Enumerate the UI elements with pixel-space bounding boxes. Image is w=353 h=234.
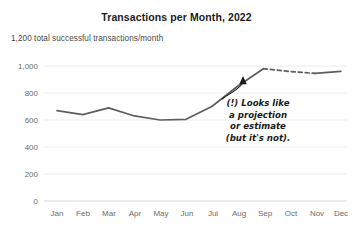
x-tick-label-nov: Nov [310, 209, 324, 218]
x-tick-label-feb: Feb [76, 209, 90, 218]
chart-container: Transactions per Month, 2022 1,200 total… [0, 0, 353, 234]
x-axis-labels: Jan Feb Mar Apr May Jun Jul Aug Sep Oct … [51, 209, 349, 218]
x-tick-label-apr: Apr [129, 209, 142, 218]
y-tick-label-1000: 1,000 [18, 62, 39, 71]
x-tick-label-mar: Mar [102, 209, 116, 218]
y-axis-labels: 1,000 800 600 400 200 0 [18, 62, 39, 206]
x-tick-label-sep: Sep [258, 209, 273, 218]
x-tick-label-aug: Aug [232, 209, 246, 218]
x-tick-label-dec: Dec [334, 209, 348, 218]
annotation-line-4: (but it's not). [203, 133, 313, 145]
data-line-solid-nov-dec [315, 71, 341, 73]
x-tick-label-jun: Jun [181, 209, 194, 218]
annotation-line-2: a projection [203, 110, 313, 122]
annotation-line-1: (!) Looks like [203, 98, 313, 110]
x-tick-label-oct: Oct [285, 209, 298, 218]
x-tick-label-jan: Jan [51, 209, 64, 218]
y-tick-label-800: 800 [25, 89, 39, 98]
projection-callout: (!) Looks like a projection or estimate … [203, 98, 313, 144]
y-tick-label-600: 600 [25, 116, 39, 125]
x-tick-label-jul: Jul [208, 209, 218, 218]
x-tick-label-may: May [153, 209, 168, 218]
annotation-line-3: or estimate [203, 121, 313, 133]
data-line-dashed-sep-nov [263, 69, 315, 74]
y-tick-label-200: 200 [25, 170, 39, 179]
y-tick-label-0: 0 [34, 197, 39, 206]
y-tick-label-400: 400 [25, 143, 39, 152]
